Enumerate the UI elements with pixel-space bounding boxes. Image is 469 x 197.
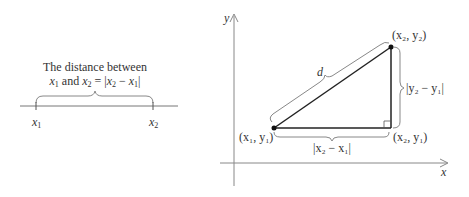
tick-label-x1: x1 [31, 115, 41, 130]
point-label-x1-y1: (x₁, y₁) [239, 130, 273, 144]
horizontal-distance-label: |x₂ − x₁| [313, 141, 351, 155]
hypotenuse [274, 47, 391, 128]
caption-line-1: The distance between [43, 60, 147, 74]
distance-diagram: The distance between x1 and x2 = |x2 − x… [0, 0, 469, 197]
vertical-distance-label: |y₂ − y₁| [406, 81, 444, 95]
hypotenuse-brace [270, 42, 389, 122]
point-label-x2-y2: (x₂, y₂) [392, 28, 426, 42]
horizontal-brace [36, 91, 153, 103]
horizontal-leg-brace [274, 132, 389, 141]
coordinate-plane-diagram: y x d |y₂ − y₁| |x₂ − x₁| (x₂, y₂) (x₁, … [220, 11, 448, 186]
y-axis-label: y [223, 11, 230, 25]
point-x2-y2 [389, 45, 394, 50]
caption-line-2: x1 and x2 = |x2 − x1| [49, 74, 141, 89]
x-axis-label: x [440, 165, 447, 179]
vertical-brace [393, 47, 404, 128]
point-label-x2-y1: (x₂, y₁) [393, 130, 427, 144]
number-line-diagram: The distance between x1 and x2 = |x2 − x… [20, 60, 178, 130]
tick-label-x2: x2 [148, 115, 158, 130]
right-angle-marker [384, 121, 391, 128]
hypotenuse-label: d [317, 65, 324, 79]
